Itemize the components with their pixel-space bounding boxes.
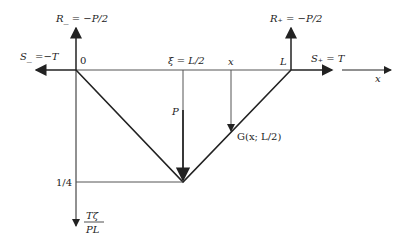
xi-label: ξ = L/2 [168,55,205,66]
r-minus-label: R_ = −P/2 [55,13,108,25]
origin-label: 0 [80,55,86,66]
x-axis-label: x [375,73,381,84]
r-plus-label: R₊ = −P/2 [269,13,322,24]
p-label: P [171,106,179,117]
g-label: G(x; L/2) [237,131,281,142]
y-axis-denominator: PL [85,224,100,235]
influence-diagram: R_ = −P/2 R₊ = −P/2 S_ =−T S₊ = T 0 ξ = … [0,0,406,240]
s-plus-label: S₊ = T [311,53,346,64]
s-minus-label: S_ =−T [20,51,60,63]
y-axis-numerator: Tζ [86,210,99,221]
quarter-label: 1/4 [56,177,72,188]
l-label: L [279,56,287,67]
x-mark-label: x [228,56,234,67]
